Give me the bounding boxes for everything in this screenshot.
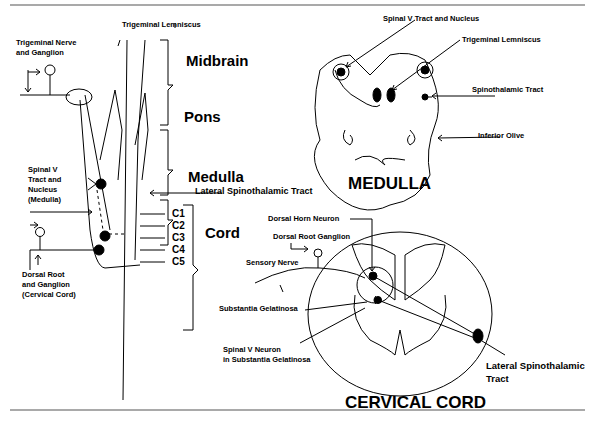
cervical-cord-title: CERVICAL CORD — [345, 393, 486, 413]
lateral-spinothalamic-cord-label: Lateral SpinothalamicTract — [486, 359, 585, 385]
segment-labels: C1C2C3C4C5 — [172, 208, 185, 268]
cervical-cord-cross-section — [308, 232, 492, 396]
substantia-label: Substantia Gelatinosa — [219, 304, 298, 314]
sensory-nerve-label: Sensory Nerve — [246, 258, 299, 268]
brainstem-outline — [80, 40, 148, 400]
trigeminal-nerve-label: Trigeminal Nerveand Ganglion — [16, 38, 76, 58]
dorsal-horn-label: Dorsal Horn Neuron — [268, 214, 339, 224]
medulla-region-label: Medulla — [188, 168, 244, 185]
spinal-v-neuron-label: Spinal V Neuronin Substantia Gelatinosa — [223, 345, 311, 365]
spinal-v-label: Spinal VTract andNucleus(Medulla) — [28, 165, 61, 205]
medulla-title: MEDULLA — [348, 174, 431, 194]
dorsal-root-ganglion-label: Dorsal Root Ganglion — [273, 232, 350, 242]
lateral-spinothalamic-left-label: Lateral Spinothalamic Tract — [195, 186, 313, 196]
medulla-inferior-olive-label: Inferior Olive — [478, 131, 524, 141]
cord-label: Cord — [205, 224, 240, 241]
pons-label: Pons — [184, 108, 221, 125]
midbrain-label: Midbrain — [186, 52, 249, 69]
trigeminal-lemniscus-label: Trigeminal Lemniscus — [122, 20, 201, 30]
medulla-spinal-v-label: Spinal V Tract and Nucleus — [383, 14, 479, 24]
dorsal-root-label: Dorsal Rootand Ganglion(Cervical Cord) — [22, 270, 76, 300]
medulla-spinothalamic-label: Spinothalamic Tract — [472, 85, 543, 95]
medulla-trigeminal-label: Trigeminal Lemniscus — [462, 35, 541, 45]
